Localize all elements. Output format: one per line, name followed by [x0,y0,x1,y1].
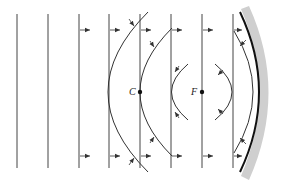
mirror-wave-diagram [0,0,287,182]
incident-arrows [80,30,242,156]
focus-point [200,90,204,94]
center-label: C [129,87,136,97]
focus-label: F [191,87,197,97]
reflected-wavefront-3 [172,64,189,120]
reflected-wavefront-4 [215,64,232,120]
reflected-wavefront-2 [140,28,172,156]
center-point [138,90,142,94]
reflected-arrows [129,19,246,165]
reflected-wavefront-5 [234,31,253,153]
mirror-shade [241,6,269,180]
